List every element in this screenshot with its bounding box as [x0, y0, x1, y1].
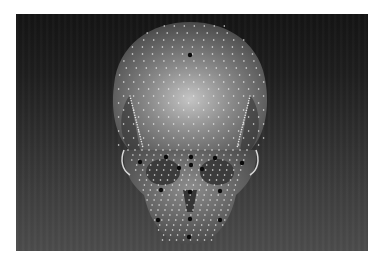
black-landmark — [218, 189, 222, 193]
black-landmark — [189, 155, 193, 159]
black-landmark — [156, 218, 160, 222]
black-landmark — [188, 53, 192, 57]
black-landmark — [177, 166, 181, 170]
black-landmark — [240, 161, 244, 165]
skull-model — [0, 0, 384, 267]
black-landmark — [138, 160, 142, 164]
black-landmark — [189, 163, 193, 167]
black-landmark — [188, 217, 192, 221]
black-landmark — [187, 235, 191, 239]
black-landmark — [159, 188, 163, 192]
black-landmark — [200, 167, 204, 171]
black-landmark — [218, 218, 222, 222]
black-landmark — [213, 156, 217, 160]
black-landmark — [164, 155, 168, 159]
black-landmark — [188, 190, 192, 194]
